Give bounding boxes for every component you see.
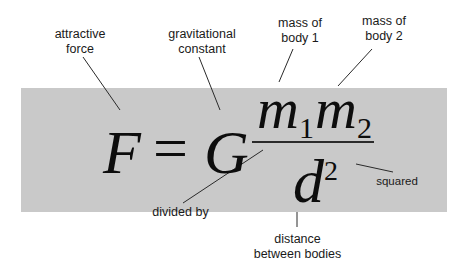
symbol-gravitational-constant: G: [204, 121, 249, 183]
label-squared: squared: [367, 174, 427, 189]
leader-gravitational-constant: [199, 57, 220, 110]
label-mass-body-1: mass of body 1: [270, 16, 330, 46]
symbol-mass-2: m2: [315, 80, 372, 138]
label-divided-by: divided by: [143, 205, 218, 220]
label-gravitational-constant: gravitational constant: [157, 27, 247, 57]
symbol-mass-1: m1: [257, 80, 314, 138]
symbol-distance: d2: [293, 150, 338, 212]
symbol-equals: =: [153, 117, 188, 179]
leader-attractive-force: [83, 57, 120, 110]
label-attractive-force: attractive force: [50, 27, 110, 57]
label-mass-body-2: mass of body 2: [354, 14, 414, 44]
symbol-force: F: [103, 121, 141, 183]
label-distance: distance between bodies: [245, 232, 350, 262]
leader-squared: [356, 164, 393, 172]
